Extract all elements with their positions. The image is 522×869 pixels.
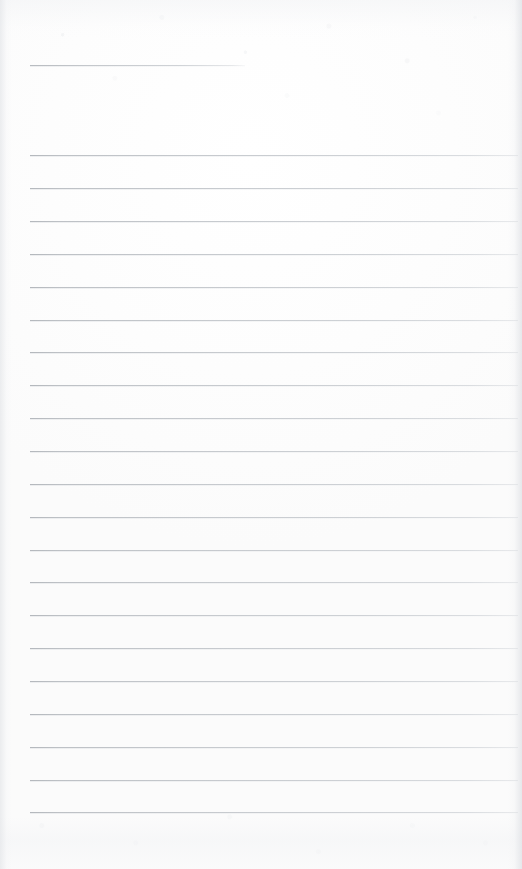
rule-line	[30, 615, 518, 616]
scan-artifact-top	[0, 0, 522, 38]
rule-line	[30, 221, 518, 222]
rule-line	[30, 254, 518, 255]
scan-artifact-bottom	[0, 817, 522, 869]
page-edge-shadow-left	[0, 0, 12, 869]
rule-line	[30, 648, 518, 649]
rule-line	[30, 451, 518, 452]
rule-line	[30, 714, 518, 715]
rule-line	[30, 780, 518, 781]
header-rule-line	[30, 65, 245, 66]
rule-line	[30, 385, 518, 386]
scanned-page	[0, 0, 522, 869]
rule-line	[30, 812, 518, 813]
rule-line	[30, 188, 518, 189]
page-edge-shadow-right	[508, 0, 522, 869]
rule-line	[30, 352, 518, 353]
rule-line	[30, 320, 518, 321]
rule-line	[30, 484, 518, 485]
rule-line	[30, 155, 518, 156]
rule-line	[30, 517, 518, 518]
paper-grain-texture	[0, 0, 522, 869]
rule-line	[30, 550, 518, 551]
rule-line	[30, 287, 518, 288]
rule-line	[30, 681, 518, 682]
rule-line	[30, 418, 518, 419]
rule-line	[30, 582, 518, 583]
rule-line	[30, 747, 518, 748]
